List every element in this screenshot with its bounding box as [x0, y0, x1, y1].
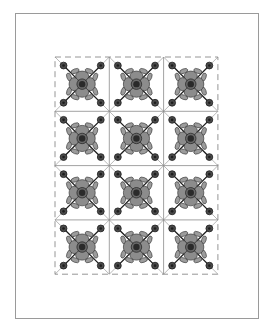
quilt-pattern-canvas [0, 0, 270, 331]
quilt-grid [55, 57, 218, 274]
